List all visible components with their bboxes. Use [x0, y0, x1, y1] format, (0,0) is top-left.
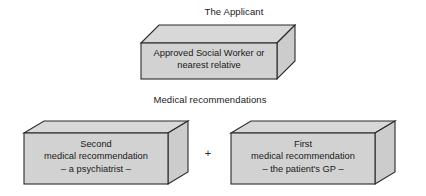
- box-second-label: Second medical recommendation – a psychi…: [24, 138, 168, 175]
- box-second-label-line2: medical recommendation: [24, 150, 168, 162]
- box-second-label-line1: Second: [24, 138, 168, 150]
- box-applicant-label: Approved Social Worker or nearest relati…: [141, 47, 277, 72]
- heading-medical-recommendations: Medical recommendations: [0, 94, 423, 105]
- diagram-canvas: The Applicant Medical recommendations Ap…: [0, 0, 426, 196]
- box-first-label-line3: – the patient's GP –: [231, 163, 375, 175]
- box-second-label-line3: – a psychiatrist –: [24, 163, 168, 175]
- box-first-label: First medical recommendation – the patie…: [231, 138, 375, 175]
- box-first-top-face: [231, 121, 395, 133]
- heading-the-applicant: The Applicant: [21, 6, 426, 17]
- box-first-label-line2: medical recommendation: [231, 150, 375, 162]
- box-second-top-face: [24, 121, 188, 133]
- box-applicant-label-line2: nearest relative: [141, 59, 277, 71]
- box-applicant-top-face: [141, 25, 295, 43]
- box-applicant-label-line1: Approved Social Worker or: [141, 47, 277, 59]
- plus-connector-icon: +: [200, 147, 216, 159]
- box-first-label-line1: First: [231, 138, 375, 150]
